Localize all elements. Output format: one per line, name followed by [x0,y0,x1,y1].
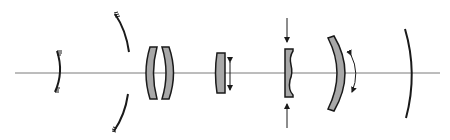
mirror-hatching-icon [112,12,120,132]
secondary-mirror [55,51,62,92]
primary-mirror [112,12,129,132]
optical-diagram [0,0,450,140]
compressed-lens [285,18,293,128]
